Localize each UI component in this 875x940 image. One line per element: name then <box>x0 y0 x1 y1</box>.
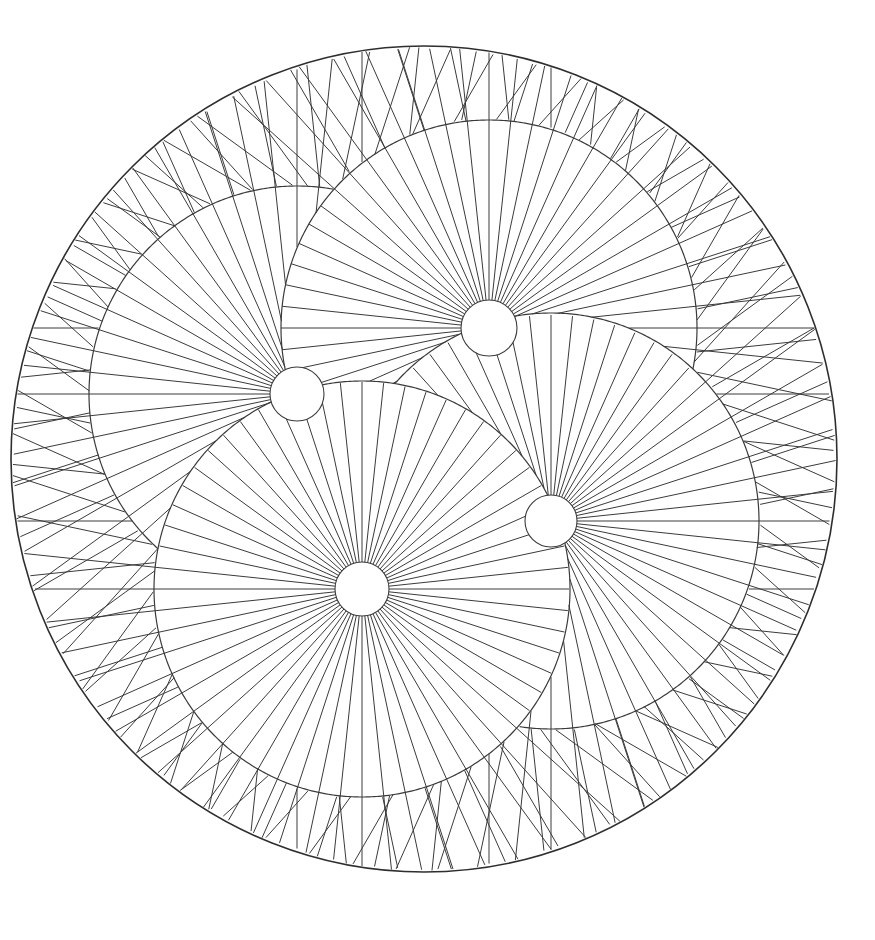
radial-ray <box>373 614 485 865</box>
radial-ray <box>18 391 92 434</box>
radial-ray <box>460 49 486 300</box>
radial-ray <box>370 615 453 869</box>
radial-ray <box>576 430 833 513</box>
radial-ray <box>729 628 796 635</box>
radial-ray <box>164 723 202 776</box>
radial-ray <box>650 142 687 193</box>
radial-ray <box>53 285 272 383</box>
radial-ray <box>389 592 568 611</box>
radial-ray <box>611 109 640 159</box>
radial-ray <box>465 770 506 861</box>
radial-ray <box>398 49 480 301</box>
radial-ray <box>425 788 451 869</box>
radial-ray <box>317 797 336 856</box>
radial-ray <box>556 730 653 801</box>
radial-ray <box>510 147 690 309</box>
radial-ray <box>432 781 441 871</box>
radial-ray <box>98 600 338 707</box>
radial-ray <box>232 97 468 309</box>
radial-ray <box>109 634 159 721</box>
radial-ray <box>299 67 472 306</box>
radial-ray <box>182 609 344 789</box>
radial-ray <box>179 130 285 368</box>
radial-ray <box>340 383 359 562</box>
radial-ray <box>438 767 471 869</box>
radial-ray <box>56 571 155 643</box>
radial-ray <box>498 75 571 301</box>
radial-ray <box>368 615 422 869</box>
radial-ray <box>158 607 342 773</box>
radial-ray <box>389 567 568 586</box>
radial-ray <box>430 49 484 301</box>
radial-ray <box>569 605 615 823</box>
radial-ray <box>497 65 537 120</box>
radial-ray <box>492 59 517 300</box>
radial-ray <box>282 306 461 325</box>
radial-ray <box>278 400 351 564</box>
radial-ray <box>568 540 735 726</box>
radial-ray <box>173 505 337 578</box>
radial-ray <box>339 796 346 863</box>
radial-ray <box>565 546 694 769</box>
radial-ray <box>554 316 573 495</box>
radial-ray <box>309 224 465 314</box>
radial-ray <box>577 524 826 550</box>
radial-ray <box>365 616 392 870</box>
radial-ray <box>262 783 286 838</box>
radial-ray <box>564 641 585 837</box>
radial-ray <box>373 400 446 564</box>
radial-ray <box>689 679 744 719</box>
radial-ray <box>570 538 754 704</box>
radial-ray <box>170 712 193 783</box>
mandala-illustration <box>0 0 875 940</box>
radial-ray <box>74 246 126 276</box>
radial-ray <box>694 228 763 290</box>
radial-ray <box>616 127 665 162</box>
radial-ray <box>48 297 103 321</box>
radial-ray <box>209 743 223 809</box>
radial-ray <box>385 486 541 576</box>
radial-ray <box>234 96 282 321</box>
radial-ray <box>164 140 251 190</box>
radial-ray <box>387 600 551 673</box>
radial-ray <box>80 597 337 680</box>
radial-ray <box>378 611 551 850</box>
radial-ray <box>501 746 559 846</box>
radial-ray <box>316 59 332 213</box>
radial-ray <box>626 109 639 170</box>
radial-ray <box>689 240 772 267</box>
radial-ray <box>697 229 763 320</box>
radial-rays-group <box>13 47 836 870</box>
radial-ray <box>31 337 271 388</box>
radial-ray <box>515 711 531 860</box>
radial-ray <box>29 347 90 391</box>
radial-ray <box>34 531 138 591</box>
radial-ray <box>365 383 384 562</box>
radial-ray <box>478 742 505 867</box>
radial-ray <box>183 486 339 576</box>
radial-ray <box>107 199 160 237</box>
radial-ray <box>594 724 659 796</box>
radial-ray <box>746 594 801 618</box>
hub-upper-left <box>270 367 324 421</box>
radial-ray <box>678 164 711 237</box>
radial-ray <box>20 495 114 537</box>
radial-ray <box>743 441 834 482</box>
radial-ray <box>113 190 279 374</box>
radial-ray <box>636 711 718 748</box>
radial-ray <box>565 82 587 132</box>
radial-ray <box>591 87 597 144</box>
radial-ray <box>253 614 351 833</box>
hub-lower-left <box>335 562 389 616</box>
hub-right <box>525 495 577 547</box>
radial-ray <box>697 276 792 345</box>
radial-ray <box>211 759 240 809</box>
radial-ray <box>576 529 809 605</box>
radial-ray <box>616 718 645 806</box>
radial-ray <box>307 65 320 187</box>
radial-ray <box>191 121 253 190</box>
radial-ray <box>655 135 677 202</box>
radial-ray <box>655 701 688 774</box>
radial-ray <box>576 461 835 516</box>
radial-ray <box>514 64 533 121</box>
